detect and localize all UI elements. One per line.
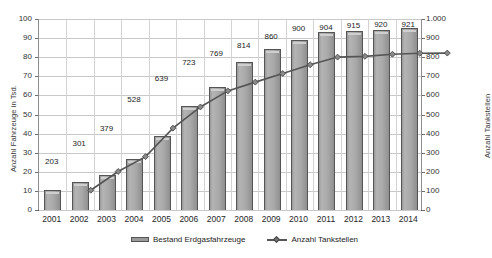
y-tick-mark-right [422,191,425,192]
y-tick-mark-left [35,115,38,116]
y-tick-label-right: 600 [426,91,460,99]
y-tick-mark-left [35,210,38,211]
data-label: 639 [144,74,178,83]
bar-highlight [375,32,388,34]
line-marker [280,71,286,77]
data-label: 203 [35,157,69,166]
y-tick-mark-right [422,95,425,96]
y-tick-mark-left [35,134,38,135]
data-label: 723 [172,58,206,67]
y-tick-label-right: 1.000 [426,15,460,23]
data-label: 379 [90,124,124,133]
y-tick-mark-left [35,57,38,58]
y-tick-label-left: 70 [2,72,32,80]
y-tick-mark-left [35,19,38,20]
y-tick-label-right: 400 [426,130,460,138]
bar-highlight [403,30,416,32]
data-label: 528 [117,95,151,104]
y-tick-label-right: 0 [426,206,460,214]
y-tick-mark-left [35,95,38,96]
bar-swatch-icon [131,237,149,242]
y-tick-label-left: 50 [2,111,32,119]
y-tick-label-left: 80 [2,53,32,61]
bar-highlight [320,34,333,36]
line-marker [417,50,423,56]
legend-item-anzahl-tankstellen[interactable]: Anzahl Tankstellen [267,235,358,244]
legend-label: Anzahl Tankstellen [291,235,358,244]
y-tick-label-right: 200 [426,168,460,176]
legend-item-bestand-erdgasfahrzeuge[interactable]: Bestand Erdgasfahrzeuge [131,235,246,244]
line-marker-swatch-icon [267,236,287,243]
y-tick-label-right: 900 [426,34,460,42]
bar [44,190,61,210]
vertical-gridline [66,19,67,210]
y-tick-label-left: 100 [2,15,32,23]
y-tick-label-right: 800 [426,53,460,61]
data-label: 814 [227,41,261,50]
y-tick-mark-right [422,57,425,58]
y-tick-label-right: 300 [426,149,460,157]
y-tick-mark-left [35,191,38,192]
y-tick-label-left: 40 [2,130,32,138]
line-marker [307,62,313,68]
y-tick-label-left: 90 [2,34,32,42]
y-tick-label-right: 500 [426,111,460,119]
x-tick-label: 2014 [388,214,428,224]
data-label: 921 [391,20,425,29]
bar-highlight [348,33,361,35]
y-tick-label-left: 10 [2,187,32,195]
legend-label: Bestand Erdgasfahrzeuge [153,235,246,244]
y-axis-title-right: Anzahl Tankstellen [483,94,492,158]
y-tick-mark-left [35,38,38,39]
line-marker [362,53,368,59]
y-tick-label-left: 60 [2,91,32,99]
y-tick-mark-right [422,172,425,173]
data-label: 301 [62,139,96,148]
chart-legend: Bestand Erdgasfahrzeuge Anzahl Tankstell… [0,235,489,244]
y-tick-mark-left [35,76,38,77]
y-tick-label-left: 30 [2,149,32,157]
line-marker [389,51,395,57]
y-tick-mark-left [35,153,38,154]
line-series [77,38,461,229]
y-tick-mark-right [422,134,425,135]
y-tick-mark-right [422,210,425,211]
y-tick-mark-right [422,76,425,77]
y-tick-label-right: 100 [426,187,460,195]
y-tick-label-right: 700 [426,72,460,80]
line-marker [335,54,341,60]
y-tick-mark-right [422,38,425,39]
data-label: 769 [199,49,233,58]
y-tick-label-left: 20 [2,168,32,176]
y-tick-mark-right [422,153,425,154]
bar-highlight [46,192,59,194]
line-marker [252,79,258,85]
y-tick-mark-right [422,115,425,116]
y-tick-label-left: 0 [2,206,32,214]
y-tick-mark-left [35,172,38,173]
